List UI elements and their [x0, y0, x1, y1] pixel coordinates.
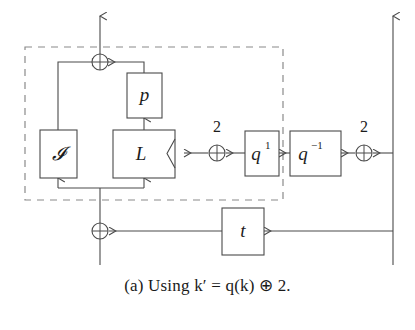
- block-linear[interactable]: L: [113, 130, 175, 178]
- block-permutation-label: p: [138, 84, 150, 105]
- block-q-inverse[interactable]: q −1: [290, 131, 341, 176]
- block-linear-label: L: [135, 143, 147, 164]
- figure-caption: (a) Using k′ = q(k) ⊕ 2.: [0, 275, 415, 296]
- block-q-forward-base: q: [251, 143, 261, 164]
- block-tweak-label: t: [240, 220, 246, 241]
- wire-p-to-xor-top: [108, 62, 144, 73]
- figure-container: 𝓘 L p q 1 q −1 t: [0, 0, 415, 330]
- xor-bottom[interactable]: [92, 223, 108, 239]
- block-diagram: 𝓘 L p q 1 q −1 t: [0, 0, 415, 275]
- xor-right[interactable]: [356, 145, 372, 161]
- edge-label-constant-right: 2: [360, 118, 368, 135]
- block-tweak[interactable]: t: [222, 208, 264, 255]
- block-q-forward[interactable]: q 1: [245, 131, 279, 176]
- xor-middle[interactable]: [209, 145, 225, 161]
- block-q-forward-exponent: 1: [265, 139, 271, 151]
- block-q-inverse-base: q: [298, 143, 308, 164]
- caption-text: (a) Using k′ = q(k) ⊕ 2.: [124, 276, 291, 295]
- edge-label-constant-middle: 2: [213, 118, 221, 135]
- block-q-inverse-exponent: −1: [311, 139, 323, 151]
- xor-top[interactable]: [92, 54, 108, 70]
- block-identity[interactable]: 𝓘: [40, 130, 77, 178]
- wire-identity-to-xor-top: [58, 62, 92, 130]
- block-permutation[interactable]: p: [127, 73, 162, 118]
